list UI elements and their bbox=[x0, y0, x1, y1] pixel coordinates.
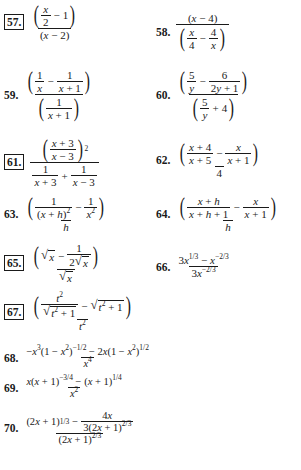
problem-number: 66. bbox=[156, 261, 170, 273]
expression: 3x1/3 − x−2/3 3x−2/3 bbox=[176, 254, 230, 279]
problem-67: 67. (t2√t2 + 1−√t2 + 1) t2 bbox=[4, 292, 134, 332]
problem-number: 70. bbox=[4, 422, 18, 434]
problem-59: 59. (1x−1x + 1) (1x + 1) bbox=[4, 68, 94, 121]
problem-65: 65. (√x−12√x) √x bbox=[4, 242, 102, 284]
problem-number: 61. bbox=[4, 154, 24, 170]
problem-68: 68. −x3(1 − x2)−1/2 − 2x(1 − x2)1/2 x4 bbox=[4, 346, 151, 369]
problem-62: 62. (x + 4x + 5−xx + 1) 4 bbox=[156, 140, 262, 179]
problem-number: 62. bbox=[156, 154, 170, 166]
problem-number: 67. bbox=[4, 304, 24, 320]
expression: −x3(1 − x2)−1/2 − 2x(1 − x2)1/2 x4 bbox=[24, 346, 151, 369]
expression: (√x−12√x) √x bbox=[30, 242, 101, 284]
problem-70: 70. (2x + 1)1/3−4x3(2x + 1)2/3 (2x + 1)2… bbox=[4, 410, 135, 445]
problem-number: 68. bbox=[4, 352, 18, 364]
expression: (1(x + h)2−1x2) h bbox=[24, 194, 107, 233]
expression: x(x + 1)−3/4 − (x + 1)1/4 x2 bbox=[24, 376, 123, 399]
problem-69: 69. x(x + 1)−3/4 − (x + 1)1/4 x2 bbox=[4, 376, 124, 399]
expression: (x2−1) (x − 2) bbox=[30, 2, 79, 41]
problem-63: 63. (1(x + h)2−1x2) h bbox=[4, 194, 108, 233]
problem-66: 66. 3x1/3 − x−2/3 3x−2/3 bbox=[156, 254, 231, 279]
expression: (2x + 1)1/3−4x3(2x + 1)2/3 (2x + 1)2/3 bbox=[24, 410, 135, 445]
expression: (x + hx + h + 1−xx + 1) h bbox=[176, 194, 279, 233]
problem-58: 58. (x − 4) (x4−4x) bbox=[156, 12, 229, 51]
problem-number: 64. bbox=[156, 208, 170, 220]
expression: (5y−62y + 1) (5y+4) bbox=[176, 68, 251, 121]
problem-number: 58. bbox=[156, 26, 170, 38]
problem-64: 64. (x + hx + h + 1−xx + 1) h bbox=[156, 194, 279, 233]
problem-number: 69. bbox=[4, 382, 18, 394]
problem-60: 60. (5y−62y + 1) (5y+4) bbox=[156, 68, 251, 121]
problem-number: 60. bbox=[156, 89, 170, 101]
problem-61: 61. (x + 3x − 3)2 1x + 3+1x − 3 bbox=[4, 136, 99, 188]
expression: (1x−1x + 1) (1x + 1) bbox=[24, 68, 93, 121]
expression: (x − 4) (x4−4x) bbox=[176, 12, 229, 51]
expression: (x + 4x + 5−xx + 1) 4 bbox=[176, 140, 262, 179]
expression: (x + 3x − 3)2 1x + 3+1x − 3 bbox=[30, 136, 98, 188]
problem-number: 65. bbox=[4, 255, 24, 271]
problem-number: 59. bbox=[4, 89, 18, 101]
problem-number: 57. bbox=[4, 14, 24, 30]
problem-57: 57. (x2−1) (x − 2) bbox=[4, 2, 79, 41]
problem-number: 63. bbox=[4, 208, 18, 220]
expression: (t2√t2 + 1−√t2 + 1) t2 bbox=[30, 292, 134, 332]
